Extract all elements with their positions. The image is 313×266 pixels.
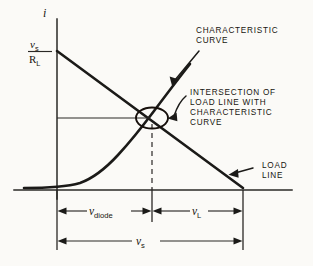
y-intercept-label: vs RL [28, 38, 52, 68]
load-line-leader-arrowhead [229, 169, 239, 178]
intersection-annotation-line-2: LOAD LINE WITH [190, 98, 266, 107]
intersection-annotation: INTERSECTION OF LOAD LINE WITH CHARACTER… [190, 88, 276, 127]
load-line-annotation-line-1: LOAD [262, 161, 287, 170]
characteristic-curve-leader [170, 51, 199, 87]
characteristic-curve [24, 64, 190, 188]
vs-arrowhead-left [58, 238, 67, 245]
characteristic-curve-annotation: CHARACTERISTIC CURVE [196, 26, 278, 45]
intersection-annotation-line-3: CHARACTERISTIC [190, 108, 272, 117]
intersection-leader [168, 96, 187, 121]
load-line-leader [229, 168, 254, 178]
y-intercept-numerator: vs [30, 38, 39, 53]
load-line-annotation-line-2: LINE [262, 171, 283, 180]
load-line-annotation: LOAD LINE [262, 161, 287, 180]
characteristic-curve-leader-line [175, 51, 199, 80]
vs-arrowhead-right [234, 238, 243, 245]
vl-arrowhead-left [153, 208, 162, 215]
figure-canvas: vs RL i CHARACTERISTIC CURVE INTERSECTIO… [0, 0, 313, 266]
vdiode-arrowhead-right [143, 208, 152, 215]
vdiode-dimension-label: vdiode [89, 205, 113, 220]
y-intercept-denominator: RL [29, 53, 40, 68]
current-axis-label: i [43, 6, 46, 20]
vdiode-arrowhead-left [58, 208, 67, 215]
intersection-annotation-line-1: INTERSECTION OF [190, 88, 276, 97]
dimension-row-lower [58, 238, 243, 245]
diode-load-line-figure: vs RL i CHARACTERISTIC CURVE INTERSECTIO… [0, 0, 313, 266]
vs-dimension-label: vs [136, 235, 145, 250]
vl-dimension-label: vL [192, 205, 201, 220]
vl-arrowhead-right [234, 208, 243, 215]
intersection-annotation-line-4: CURVE [190, 118, 222, 127]
dimension-row-upper [58, 208, 243, 215]
characteristic-curve-annotation-line-1: CHARACTERISTIC [196, 26, 278, 35]
characteristic-curve-annotation-line-2: CURVE [196, 36, 228, 45]
intersection-leader-arrowhead [168, 112, 178, 121]
